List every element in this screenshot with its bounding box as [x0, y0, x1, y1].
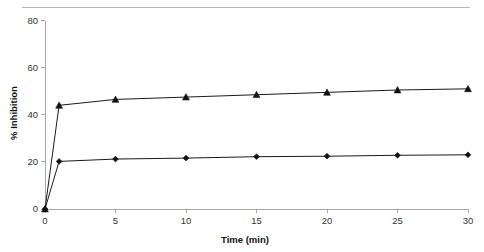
chart-figure: 020406080 051015202530 Time (min) % Inhi… [0, 0, 484, 252]
data-point-marker [395, 152, 401, 158]
data-point-marker [465, 152, 471, 158]
x-tick-label: 30 [463, 215, 474, 226]
data-point-marker [183, 155, 189, 161]
x-tick-label: 25 [392, 215, 403, 226]
y-axis-title: % Inhibition [8, 86, 19, 140]
x-tick-label: 5 [113, 215, 118, 226]
y-tick-label: 40 [27, 109, 38, 120]
data-series-group [42, 85, 472, 211]
x-axis: 051015202530 [42, 209, 473, 226]
x-tick-label: 10 [181, 215, 192, 226]
series-line-upper-series [45, 89, 468, 209]
line-chart: 020406080 051015202530 Time (min) % Inhi… [0, 0, 484, 252]
data-point-marker [56, 159, 62, 165]
x-axis-title: Time (min) [221, 234, 269, 245]
y-tick-label: 60 [27, 62, 38, 73]
y-axis: 020406080 [27, 15, 45, 215]
data-point-marker [113, 156, 119, 162]
y-tick-label: 80 [27, 15, 38, 26]
x-tick-label: 15 [251, 215, 262, 226]
data-point-marker [324, 153, 330, 159]
data-point-marker [254, 154, 260, 160]
x-tick-label: 0 [42, 215, 47, 226]
y-tick-label: 20 [27, 156, 38, 167]
y-tick-label: 0 [33, 203, 38, 214]
series-line-lower-series [45, 155, 468, 209]
x-tick-label: 20 [322, 215, 333, 226]
